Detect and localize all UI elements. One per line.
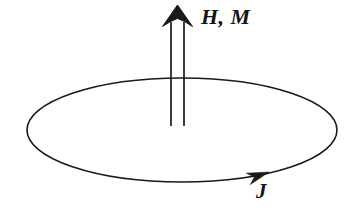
- figure-container: H, M J: [0, 0, 351, 215]
- vertical-arrow-shaft: [171, 22, 184, 126]
- ellipse-loop-icon: [27, 78, 337, 182]
- up-arrow-icon: [163, 5, 193, 27]
- diagram-canvas: [0, 0, 351, 215]
- current-density-label: J: [256, 181, 267, 202]
- field-magnetization-label: H, M: [201, 6, 251, 28]
